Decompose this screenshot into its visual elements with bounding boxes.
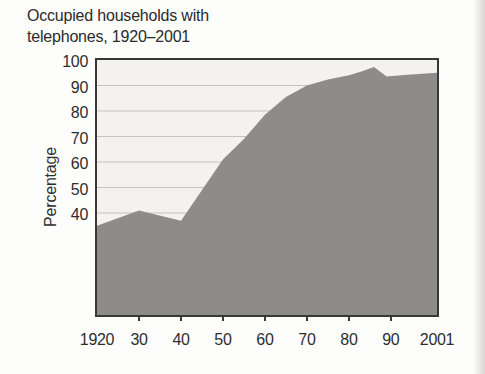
x-tick-mark bbox=[390, 316, 392, 321]
x-tick-mark bbox=[138, 316, 140, 321]
y-tick-label: 100 bbox=[0, 53, 88, 71]
y-tick-label: 90 bbox=[0, 79, 88, 97]
y-tick-label: 40 bbox=[0, 206, 88, 224]
y-tick-label: 80 bbox=[0, 104, 88, 122]
x-tick-mark bbox=[264, 316, 266, 321]
chart-title-line2: telephones, 1920–2001 bbox=[27, 26, 209, 47]
x-axis-labels: 1920304050607080902001 bbox=[0, 331, 485, 351]
chart-title: Occupied households with telephones, 192… bbox=[27, 5, 209, 47]
plot-area bbox=[95, 58, 439, 317]
y-axis-labels: 405060708090100 bbox=[0, 60, 88, 315]
telephone-chart-figure: Occupied households with telephones, 192… bbox=[0, 0, 485, 374]
area-chart-svg bbox=[97, 60, 437, 315]
x-tick-mark bbox=[306, 316, 308, 321]
chart-title-line1: Occupied households with bbox=[27, 5, 209, 26]
x-tick-label: 2001 bbox=[407, 331, 467, 349]
y-tick-label: 60 bbox=[0, 155, 88, 173]
x-tick-mark bbox=[348, 316, 350, 321]
page-edge-shadow bbox=[473, 0, 485, 374]
x-tick-mark bbox=[180, 316, 182, 321]
area-fill bbox=[97, 67, 437, 315]
x-tick-mark bbox=[222, 316, 224, 321]
y-tick-label: 70 bbox=[0, 130, 88, 148]
y-tick-label: 50 bbox=[0, 181, 88, 199]
